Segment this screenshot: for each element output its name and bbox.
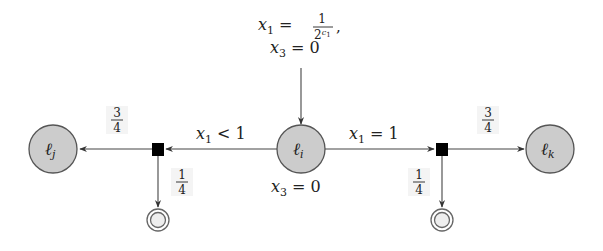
- right-guard-label: x1 = 1: [349, 124, 399, 146]
- svg-text:4: 4: [415, 183, 423, 197]
- node-li: ℓi: [277, 125, 325, 173]
- chance-node-right: [436, 143, 448, 156]
- incoming-frac-num: 1: [318, 12, 326, 26]
- svg-text:1: 1: [415, 168, 423, 182]
- svg-text:4: 4: [178, 183, 186, 197]
- svg-text:3: 3: [113, 106, 121, 120]
- node-lj: ℓj: [29, 125, 77, 173]
- incoming-label: x1 = 1 2c1 , x3 = 0: [258, 12, 341, 60]
- svg-text:1: 1: [178, 168, 186, 182]
- prob-right-to-terminal: 1 4: [408, 168, 430, 197]
- svg-text:4: 4: [484, 121, 492, 135]
- node-lk: ℓk: [526, 125, 574, 173]
- incoming-var: x1 =: [258, 15, 293, 37]
- terminal-node-left: [147, 209, 169, 231]
- left-guard-label: x1 < 1: [196, 124, 246, 146]
- center-update-label: x3 = 0: [271, 177, 321, 199]
- svg-text:4: 4: [113, 121, 121, 135]
- terminal-node-right: [431, 209, 453, 231]
- game-graph-diagram: x1 = 1 2c1 , x3 = 0 x1 < 1 x1 = 1 x3 = 0…: [0, 0, 603, 251]
- incoming-comma: ,: [336, 18, 341, 36]
- svg-text:3: 3: [484, 106, 492, 120]
- prob-right-to-lk: 3 4: [477, 106, 499, 135]
- prob-left-to-terminal: 1 4: [171, 168, 193, 197]
- incoming-line2: x3 = 0: [270, 38, 320, 60]
- chance-node-left: [152, 143, 164, 156]
- prob-left-to-lj: 3 4: [106, 106, 128, 135]
